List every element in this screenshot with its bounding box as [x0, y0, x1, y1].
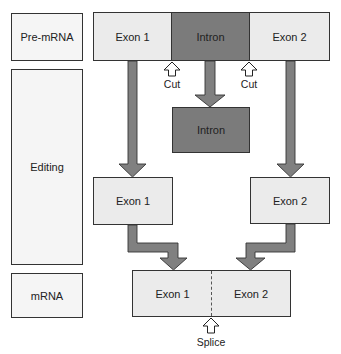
splice-arrow-icon: [203, 318, 219, 333]
mature-mrna: Exon 1 Exon 2: [132, 270, 291, 317]
splice-label: Splice: [197, 336, 226, 348]
cut-label-right: Cut: [241, 78, 257, 90]
removed-intron-label: Intron: [197, 124, 225, 136]
mature-mrna-exon2-label: Exon 2: [234, 288, 268, 300]
separated-exon2: Exon 2: [250, 177, 330, 224]
mature-mrna-exon2: Exon 2: [212, 271, 290, 316]
cut-label-left: Cut: [164, 78, 180, 90]
separated-exon1-label: Exon 1: [116, 195, 150, 207]
cut-arrow-left-icon: [164, 62, 180, 76]
removed-intron: Intron: [172, 107, 250, 153]
separated-exon2-label: Exon 2: [273, 195, 307, 207]
mature-mrna-exon1: Exon 1: [133, 271, 212, 316]
separated-exon1: Exon 1: [93, 177, 173, 225]
mature-mrna-exon1-label: Exon 1: [155, 288, 189, 300]
cut-arrow-right-icon: [241, 62, 257, 76]
